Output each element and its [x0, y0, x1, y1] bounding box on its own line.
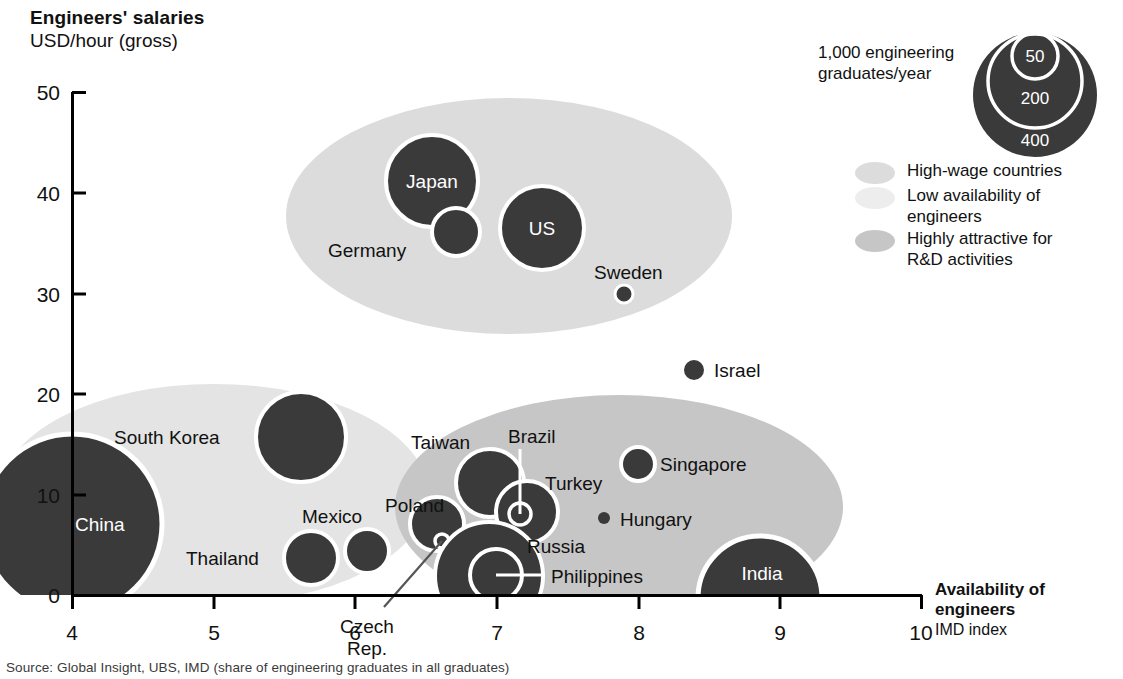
x-tick-label-5: 5 [208, 621, 220, 644]
label-brazil: Brazil [508, 426, 556, 447]
label-thailand: Thailand [186, 548, 259, 569]
x-axis-subtitle: IMD index [935, 621, 1007, 638]
bubble-israel[interactable] [684, 360, 704, 380]
size-legend-title-line1: 1,000 engineering [818, 42, 1018, 63]
legend-label-low-availability-2: engineers [907, 207, 982, 226]
label-hungary: Hungary [620, 509, 692, 530]
x-tick-label-9: 9 [774, 621, 786, 644]
bubble-singapore[interactable] [621, 447, 655, 481]
size-legend-title: 1,000 engineering graduates/year [818, 42, 1018, 84]
source-note: Source: Global Insight, UBS, IMD (share … [6, 660, 509, 675]
bubble-india[interactable] [698, 536, 822, 660]
label-japan: Japan [406, 171, 458, 192]
x-axis-title-line1: Availability of [935, 580, 1045, 599]
size-legend-label-50: 50 [1026, 47, 1045, 66]
label-israel: Israel [714, 360, 760, 381]
bubble-chart-canvas: 50 40 30 20 10 0 4 5 6 7 8 9 10 Japan Ge… [0, 0, 1123, 679]
label-china: China [75, 514, 125, 535]
x-tick-label-4: 4 [66, 621, 78, 644]
chart-page: Engineers' salaries USD/hour (gross) [0, 0, 1123, 679]
x-tick-labels: 4 5 6 7 8 9 10 [66, 621, 933, 644]
x-tick-label-7: 7 [491, 621, 503, 644]
bubble-thailand[interactable] [284, 531, 338, 585]
y-tick-label-10: 10 [37, 484, 60, 507]
label-turkey: Turkey [545, 473, 603, 494]
label-taiwan: Taiwan [411, 432, 470, 453]
legend-label-attractive-2: R&D activities [907, 250, 1013, 269]
y-tick-label-30: 30 [37, 283, 60, 306]
size-legend-title-line2: graduates/year [818, 63, 1018, 84]
legend-item-low-availability[interactable]: Low availability of engineers [855, 185, 1123, 227]
x-axis-title: Availability of engineers IMD index [935, 580, 1120, 640]
label-india: India [741, 563, 783, 584]
size-legend-label-400: 400 [1021, 131, 1049, 150]
bubble-sweden[interactable] [615, 285, 633, 303]
legend-item-attractive[interactable]: Highly attractive for R&D activities [855, 228, 1123, 270]
label-poland: Poland [385, 495, 444, 516]
legend-label-high-wage: High-wage countries [907, 161, 1062, 180]
label-sweden: Sweden [594, 262, 663, 283]
x-tick-label-10: 10 [909, 621, 932, 644]
label-philippines: Philippines [551, 566, 643, 587]
label-us: US [529, 218, 555, 239]
category-legend: High-wage countries Low availability of … [855, 160, 1123, 271]
bubble-germany[interactable] [432, 208, 480, 256]
y-tick-label-40: 40 [37, 182, 60, 205]
legend-label-attractive: Highly attractive for [907, 229, 1053, 248]
y-tick-label-50: 50 [37, 81, 60, 104]
legend-swatch-low-availability [855, 187, 895, 209]
y-tick-label-20: 20 [37, 383, 60, 406]
bubble-hungary[interactable] [598, 512, 610, 524]
legend-label-low-availability: Low availability of [907, 186, 1040, 205]
label-mexico: Mexico [302, 506, 362, 527]
legend-swatch-attractive [855, 230, 895, 252]
label-czech-rep-line1: Czech [340, 616, 394, 637]
label-south-korea: South Korea [114, 427, 220, 448]
label-singapore: Singapore [660, 454, 747, 475]
bubble-south-korea[interactable] [256, 392, 346, 482]
label-germany: Germany [328, 240, 407, 261]
bubble-mexico[interactable] [345, 529, 389, 573]
legend-item-high-wage[interactable]: High-wage countries [855, 160, 1123, 184]
y-tick-label-0: 0 [48, 584, 60, 607]
size-legend-label-200: 200 [1021, 89, 1049, 108]
x-tick-label-8: 8 [633, 621, 645, 644]
label-russia: Russia [527, 536, 586, 557]
legend-swatch-high-wage [855, 162, 895, 184]
label-czech-rep-line2: Rep. [347, 638, 387, 659]
x-axis-title-line2: engineers [935, 600, 1015, 619]
